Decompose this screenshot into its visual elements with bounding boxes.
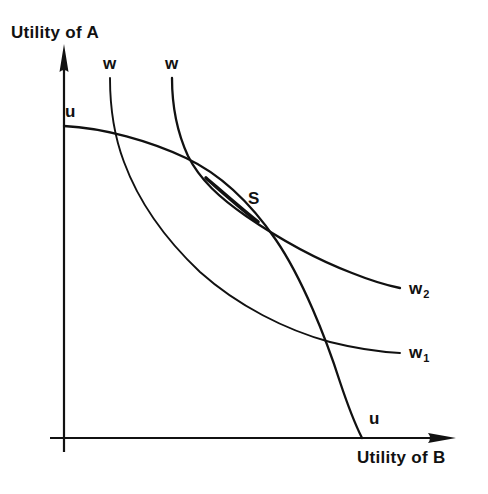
curve-label-w2-base: w	[409, 279, 422, 298]
curve-label-w1-base: w	[409, 343, 422, 362]
curve-label-w1: w1	[409, 344, 428, 361]
x-axis-arrow-icon	[428, 433, 456, 443]
y-axis-arrow-icon	[60, 44, 69, 72]
diagram-canvas	[0, 0, 488, 494]
curve-w1-welfare-indifference	[110, 78, 400, 353]
solution-point-label: S	[248, 190, 259, 207]
curve-group	[64, 78, 400, 438]
x-axis-title: Utility of B	[357, 449, 446, 466]
curve-label-w2: w2	[409, 280, 428, 297]
curve-label-w-upper-left: w	[103, 55, 116, 72]
y-axis-title: Utility of A	[11, 24, 99, 41]
curve-label-u-vertical-intercept: u	[65, 103, 75, 120]
utility-frontier-figure: Utility of A Utility of B w w u u S w1 w…	[0, 0, 488, 494]
curve-label-u-horizontal-intercept: u	[369, 410, 379, 427]
curve-label-w-upper-right: w	[165, 55, 178, 72]
curve-label-w2-subscript: 2	[423, 288, 429, 300]
curve-label-w1-subscript: 1	[423, 352, 429, 364]
